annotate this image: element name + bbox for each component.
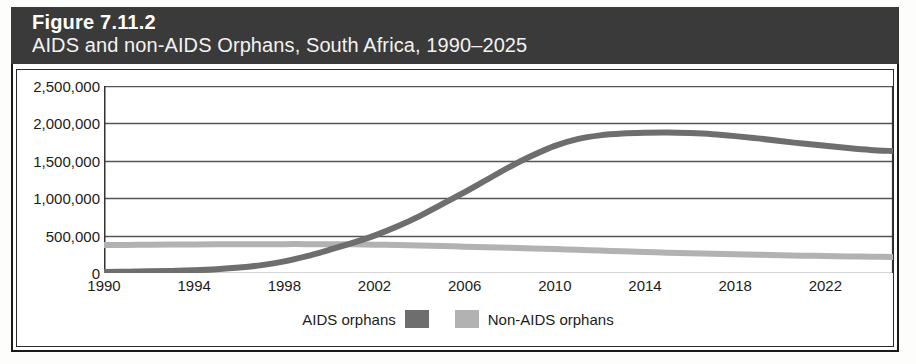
legend-entry: AIDS orphans xyxy=(302,310,428,328)
figure-subtitle: AIDS and non-AIDS Orphans, South Africa,… xyxy=(32,34,527,57)
legend-swatch xyxy=(455,310,479,328)
y-tick-label: 1,000,000 xyxy=(16,190,100,207)
legend-swatch xyxy=(405,310,429,328)
legend-label: Non-AIDS orphans xyxy=(488,311,614,328)
figure-header-bar: Figure 7.11.2 AIDS and non-AIDS Orphans,… xyxy=(11,7,899,64)
line-chart-svg xyxy=(104,86,893,273)
x-tick-label: 1994 xyxy=(177,277,210,294)
plot-area xyxy=(104,86,893,273)
x-tick-label: 2010 xyxy=(538,277,571,294)
figure-number: Figure 7.11.2 xyxy=(32,11,156,34)
chart-legend: AIDS orphansNon-AIDS orphans xyxy=(0,310,916,328)
x-tick-label: 2002 xyxy=(358,277,391,294)
x-tick-label: 2014 xyxy=(628,277,661,294)
series-line-aids-orphans xyxy=(104,133,893,272)
legend-entry: Non-AIDS orphans xyxy=(455,310,614,328)
y-tick-label: 2,000,000 xyxy=(16,115,100,132)
figure-root: Figure 7.11.2 AIDS and non-AIDS Orphans,… xyxy=(0,0,916,364)
x-axis-tick-labels: 199019941998200220062010201420182022 xyxy=(104,277,904,301)
series-line-non-aids-orphans xyxy=(104,244,893,257)
y-tick-label: 1,500,000 xyxy=(16,152,100,169)
x-tick-label: 2006 xyxy=(448,277,481,294)
x-tick-label: 1990 xyxy=(87,277,120,294)
x-tick-label: 2018 xyxy=(719,277,752,294)
y-axis-tick-labels: 0500,0001,000,0001,500,0002,000,0002,500… xyxy=(16,69,100,347)
x-tick-label: 1998 xyxy=(268,277,301,294)
y-tick-label: 2,500,000 xyxy=(16,78,100,95)
y-tick-label: 500,000 xyxy=(16,227,100,244)
x-tick-label: 2022 xyxy=(809,277,842,294)
legend-label: AIDS orphans xyxy=(302,311,395,328)
